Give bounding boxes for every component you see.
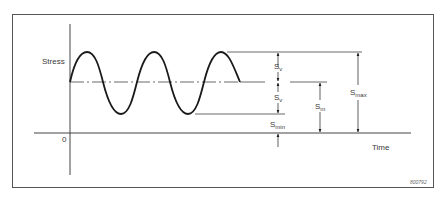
x-axis-label: Time — [372, 143, 390, 152]
y-axis-label: Stress — [42, 57, 65, 66]
smin-label: Smin — [270, 120, 285, 130]
figure-frame — [13, 15, 434, 188]
sv-upper-label: Sv — [274, 62, 282, 72]
sm-label: Sm — [315, 102, 325, 112]
smax-label: Smax — [350, 88, 367, 98]
sv-lower-label: Sv — [274, 93, 282, 103]
stress-cycle-diagram: Stress 0 Time Sv Sv Smin Sm Smax 800792 — [0, 0, 445, 200]
figure-code: 800792 — [410, 179, 427, 185]
stress-wave — [70, 52, 240, 114]
origin-label: 0 — [62, 135, 67, 144]
